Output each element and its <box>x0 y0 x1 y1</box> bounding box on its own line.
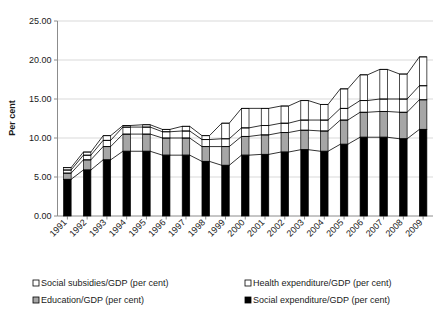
bar-segment <box>301 130 309 150</box>
legend-marker <box>245 280 251 286</box>
bar-segment <box>321 104 329 120</box>
x-tick-label: 1998 <box>186 217 207 238</box>
x-tick-label: 1995 <box>127 217 148 238</box>
bar-segment <box>261 135 269 155</box>
x-tick-label: 1999 <box>206 217 227 238</box>
bar-segment <box>360 112 368 137</box>
x-tick-label: 2008 <box>384 217 405 238</box>
bar-segment <box>400 112 408 139</box>
y-tick-label: 20.00 <box>29 55 52 65</box>
bar-segment <box>64 170 72 173</box>
bar-segment <box>400 99 408 112</box>
y-axis-tick-labels: 0.005.0010.0015.0020.0025.00 <box>29 16 52 221</box>
bar-segment <box>360 137 368 216</box>
bar-segment <box>83 170 91 216</box>
bar-segment <box>162 155 170 216</box>
bar-segment <box>261 108 269 125</box>
bar-segment <box>143 127 151 134</box>
chart-container: 0.005.0010.0015.0020.0025.00 19911992199… <box>0 0 439 324</box>
bar-segment <box>340 144 348 216</box>
y-tick-label: 0.00 <box>34 211 52 221</box>
bar-segment <box>83 155 91 160</box>
bar-segment <box>162 132 170 138</box>
bar-segment <box>321 131 329 151</box>
y-tick-label: 15.00 <box>29 94 52 104</box>
bar-segment <box>103 160 111 216</box>
x-tick-label: 2001 <box>245 217 266 238</box>
y-tick-label: 25.00 <box>29 16 52 26</box>
bar-segment <box>182 126 190 131</box>
x-tick-label: 2000 <box>225 217 246 238</box>
bar-segment <box>202 147 210 162</box>
bar-segment <box>400 74 408 99</box>
bar-segment <box>83 152 91 155</box>
x-tick-label: 2002 <box>265 217 286 238</box>
legend-label: Social subsidies/GDP (per cent) <box>41 278 168 288</box>
bar-segment <box>222 123 230 139</box>
x-tick-label: 2009 <box>403 217 424 238</box>
x-tick-label: 2005 <box>324 217 345 238</box>
bar-segment <box>281 152 289 216</box>
bar-segment <box>301 150 309 216</box>
bar-segment <box>281 106 289 123</box>
bar-segment <box>83 160 91 170</box>
bar-segment <box>242 136 250 155</box>
y-tick-label: 5.00 <box>34 172 52 182</box>
bar-segment <box>400 139 408 216</box>
x-axis-tick-labels: 1991199219931994199519961997199819992000… <box>48 217 425 238</box>
legend-label: Health expenditure/GDP (per cent) <box>253 278 391 288</box>
bar-segment <box>419 86 427 100</box>
bar-segment <box>182 131 190 138</box>
bar-segment <box>242 108 250 128</box>
x-tick-label: 1992 <box>67 217 88 238</box>
bar-segment <box>340 89 348 109</box>
x-tick-label: 1997 <box>166 217 187 238</box>
bar-segment <box>261 154 269 216</box>
bar-segment <box>340 120 348 144</box>
bar-segment <box>380 69 388 99</box>
legend-marker <box>245 297 251 303</box>
bar-segment <box>202 136 210 140</box>
bar-segment <box>222 165 230 216</box>
bar-segment <box>281 123 289 132</box>
x-tick-label: 1996 <box>146 217 167 238</box>
bar-segment <box>419 129 427 216</box>
bar-segment <box>182 138 190 155</box>
legend-marker <box>33 280 39 286</box>
bar-segment <box>64 173 72 179</box>
bar-segment <box>360 75 368 101</box>
bar-segment <box>360 101 368 113</box>
bar-segment <box>103 147 111 160</box>
bar-segment <box>321 120 329 131</box>
chart-legend: Social subsidies/GDP (per cent)Health ex… <box>33 278 391 305</box>
legend-label: Social expenditure/GDP (per cent) <box>253 295 390 305</box>
bar-segment <box>281 133 289 153</box>
y-axis-title: Per cent <box>7 100 17 136</box>
x-tick-label: 2004 <box>304 217 325 238</box>
bar-segment <box>242 128 250 137</box>
x-tick-label: 1994 <box>107 217 128 238</box>
stacked-bar-chart: 0.005.0010.0015.0020.0025.00 19911992199… <box>0 0 439 324</box>
bar-segment <box>419 57 427 86</box>
bar-segment <box>340 108 348 120</box>
bar-segment <box>123 127 131 134</box>
legend-marker <box>33 297 39 303</box>
bar-segment <box>242 155 250 216</box>
bar-segment <box>222 147 230 166</box>
bar-segment <box>380 137 388 216</box>
bar-segment <box>380 99 388 111</box>
bar-segment <box>123 151 131 216</box>
x-tick-label: 2006 <box>344 217 365 238</box>
bar-segment <box>261 126 269 135</box>
x-tick-label: 1993 <box>87 217 108 238</box>
bar-segment <box>222 139 230 147</box>
bar-segment <box>202 161 210 216</box>
x-tick-label: 2003 <box>285 217 306 238</box>
bar-segment <box>182 155 190 216</box>
bar-segment <box>123 134 131 151</box>
y-tick-label: 10.00 <box>29 133 52 143</box>
bar-segment <box>202 140 210 147</box>
bar-segment <box>301 120 309 130</box>
bar-segment <box>380 111 388 137</box>
bar-segment <box>143 134 151 151</box>
